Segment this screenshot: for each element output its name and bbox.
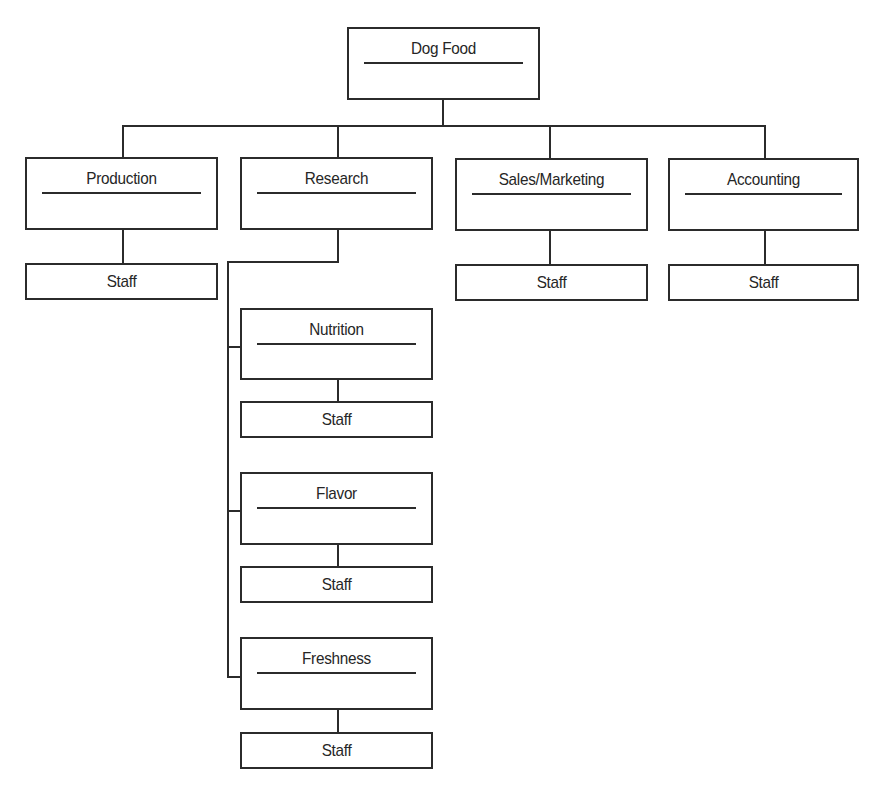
connector-research-spine — [228, 230, 338, 677]
node-accounting: Accounting — [668, 158, 859, 231]
node-sales-marketing: Sales/Marketing — [455, 158, 648, 231]
node-title: Production — [36, 169, 206, 189]
node-title: Dog Food — [358, 39, 528, 59]
node-title: Staff — [322, 410, 352, 430]
node-title: Staff — [749, 273, 779, 293]
title-underline — [257, 672, 416, 674]
node-title: Sales/Marketing — [466, 170, 636, 190]
node-title: Staff — [537, 273, 567, 293]
node-dog-food: Dog Food — [347, 27, 540, 100]
title-underline — [364, 62, 523, 64]
node-title: Accounting — [679, 170, 847, 190]
node-flavor: Flavor — [240, 472, 433, 545]
node-title: Nutrition — [251, 320, 421, 340]
node-title: Staff — [322, 741, 352, 761]
node-sales-marketing-staff: Staff — [455, 264, 648, 301]
node-research: Research — [240, 157, 433, 230]
node-freshness: Freshness — [240, 637, 433, 710]
node-title: Staff — [322, 575, 352, 595]
node-title: Freshness — [251, 649, 421, 669]
connector-lines — [0, 0, 890, 796]
title-underline — [472, 193, 631, 195]
node-nutrition: Nutrition — [240, 308, 433, 380]
node-title: Flavor — [251, 484, 421, 504]
title-underline — [257, 192, 416, 194]
node-nutrition-staff: Staff — [240, 401, 433, 438]
node-freshness-staff: Staff — [240, 732, 433, 769]
node-flavor-staff: Staff — [240, 566, 433, 603]
node-accounting-staff: Staff — [668, 264, 859, 301]
node-title: Research — [251, 169, 421, 189]
node-production-staff: Staff — [25, 263, 218, 300]
title-underline — [257, 343, 416, 345]
node-title: Staff — [107, 272, 137, 292]
title-underline — [685, 193, 842, 195]
title-underline — [42, 192, 201, 194]
node-production: Production — [25, 157, 218, 230]
title-underline — [257, 507, 416, 509]
